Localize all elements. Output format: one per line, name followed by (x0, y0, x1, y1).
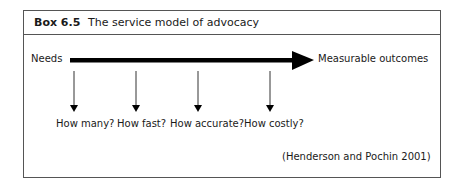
question-how-costly: How costly? (244, 118, 304, 129)
citation: (Henderson and Pochin 2001) (282, 151, 431, 162)
down-arrow-4 (266, 71, 274, 112)
needs-label: Needs (31, 53, 62, 64)
question-how-accurate: How accurate? (170, 118, 244, 129)
down-arrow-2 (132, 71, 140, 112)
outcomes-label: Measurable outcomes (318, 53, 428, 64)
question-how-many: How many? (56, 118, 114, 129)
down-arrow-3 (194, 71, 202, 112)
main-arrow (70, 51, 314, 70)
question-how-fast: How fast? (117, 118, 166, 129)
down-arrow-1 (70, 71, 78, 112)
